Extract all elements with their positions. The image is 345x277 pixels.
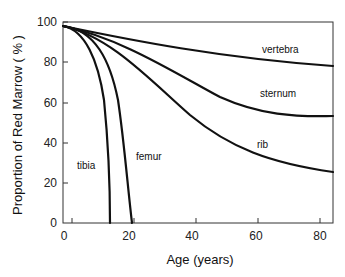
- x-tick-0: 0: [61, 229, 68, 243]
- red-marrow-chart: 100 80 60 40 20 0 0 20 40 60 80 Age (yea…: [0, 0, 345, 277]
- sternum-label: sternum: [260, 88, 296, 99]
- x-tick-40: 40: [185, 229, 199, 243]
- y-tick-0: 0: [50, 216, 57, 230]
- y-axis: [63, 22, 68, 183]
- x-tick-labels: 0 20 40 60 80: [61, 229, 327, 243]
- y-tick-labels: 100 80 60 40 20 0: [37, 15, 57, 230]
- y-tick-40: 40: [44, 136, 58, 150]
- y-axis-title: Proportion of Red Marrow ( % ): [10, 35, 25, 215]
- tibia-label: tibia: [77, 160, 96, 171]
- y-tick-20: 20: [44, 176, 58, 190]
- x-tick-80: 80: [313, 229, 327, 243]
- x-tick-20: 20: [122, 229, 136, 243]
- y-tick-100: 100: [37, 15, 57, 29]
- femur-label: femur: [136, 151, 162, 162]
- x-tick-60: 60: [249, 229, 263, 243]
- y-tick-80: 80: [44, 55, 58, 69]
- y-tick-60: 60: [44, 96, 58, 110]
- curves: [63, 26, 333, 223]
- rib-label: rib: [257, 139, 269, 150]
- x-axis-title: Age (years): [166, 252, 233, 267]
- vertebra-label: vertebra: [262, 44, 299, 55]
